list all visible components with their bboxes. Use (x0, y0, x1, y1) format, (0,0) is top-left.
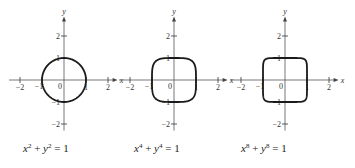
eq2-plus: + (142, 142, 154, 154)
plot1-x-arrow-icon (113, 78, 118, 82)
plot2-x-arrow-icon (223, 78, 228, 82)
equation-label-1: x2 + y2 = 1 (23, 142, 69, 154)
plot2-x-tick-label: 2 (216, 83, 220, 92)
plot2-y-axis-label: y (171, 7, 176, 16)
plot2-y-arrow-icon (172, 17, 176, 22)
plot1-x-tick-label: −2 (16, 83, 25, 92)
eq2-rhs: = 1 (163, 142, 180, 154)
plot3-y-arrow-icon (283, 17, 287, 22)
plot1-y-axis-label: y (61, 7, 66, 16)
eq1-plus: + (31, 142, 43, 154)
plot2-x-tick-label: −2 (126, 83, 135, 92)
plot1-origin-label: 0 (58, 82, 62, 91)
plot2-y-tick-label: 2 (166, 32, 170, 41)
plot3-x-arrow-icon (334, 78, 339, 82)
plot2-y-tick-label: −2 (161, 120, 170, 129)
plot1-y-arrow-icon (62, 17, 66, 22)
plot3-y-tick-label: 2 (277, 32, 281, 41)
plot3-x-tick-label: 2 (327, 83, 331, 92)
plot3-y-axis-label: y (282, 7, 287, 16)
eq3-plus: + (249, 142, 261, 154)
plot1-y-tick-label: −2 (51, 120, 60, 129)
plot3-origin-label: 0 (279, 82, 283, 91)
plot3-x-axis-label: x (340, 76, 345, 85)
eq3-rhs: = 1 (270, 142, 287, 154)
plot3-y-tick-label: −2 (272, 120, 281, 129)
plot2-origin-label: 0 (168, 82, 172, 91)
plot1-x-tick-label: 2 (106, 83, 110, 92)
equation-label-2: x4 + y4 = 1 (134, 142, 180, 154)
plot3-x-tick-label: −2 (237, 83, 246, 92)
equation-label-3: x8 + y8 = 1 (241, 142, 287, 154)
plot1-y-tick-label: 2 (56, 32, 60, 41)
eq1-rhs: = 1 (52, 142, 69, 154)
